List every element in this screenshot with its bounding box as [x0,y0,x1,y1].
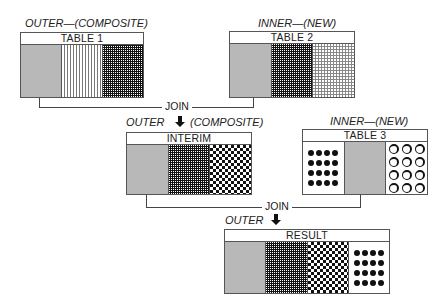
result-col-dots [349,242,389,293]
table1-col-vertical-lines [62,45,103,97]
join1-connector-right [253,98,254,108]
table1-role-label: OUTER—(COMPOSITE) [25,17,148,29]
table3-title: TABLE 3 [303,130,427,142]
join1-label: JOIN [162,100,192,112]
join2-connector-right [360,195,361,208]
table3: TABLE 3 [302,129,428,195]
result-col-checker [308,242,349,293]
interim-col-dense-grid [169,145,211,194]
result-table: RESULT [224,229,390,294]
table2-col-fine-grid [313,44,354,97]
table1-col-gray [21,45,62,97]
table3-col-circles [386,142,427,194]
result-col-gray [225,242,266,293]
table1: TABLE 1 [20,32,144,98]
table1-title: TABLE 1 [21,33,143,45]
result-role-label: OUTER [225,214,264,226]
result-col-dense-grid [266,242,307,293]
table2-col-dense-grid [272,44,314,97]
interim-table: INTERIM [126,132,252,195]
down-arrow-icon [270,214,282,226]
result-title: RESULT [225,230,389,242]
table2-title: TABLE 2 [230,32,354,44]
table3-col-gray [345,142,387,194]
interim-title: INTERIM [127,133,251,145]
table3-col-dots [303,142,345,194]
interim-col-gray [127,145,169,194]
table2-col-gray [230,44,272,97]
table2-role-label: INNER—(NEW) [258,17,336,29]
table3-role-label: INNER—(NEW) [330,115,408,127]
join1-line [39,107,254,108]
interim-col-checker [210,145,251,194]
interim-role-label-composite: (COMPOSITE) [190,116,263,128]
interim-role-label: OUTER [126,116,165,128]
join2-label: JOIN [262,200,292,212]
join2-line [146,207,361,208]
down-arrow-icon [174,116,186,128]
table2: TABLE 2 [229,31,355,98]
table1-col-dense-grid [103,45,143,97]
